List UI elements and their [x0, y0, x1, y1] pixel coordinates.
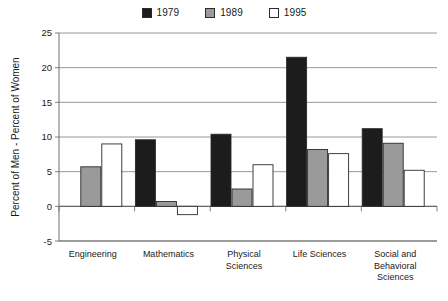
x-tick-label-engineering: Engineering — [69, 249, 117, 259]
x-tick-label-mathematics: Mathematics — [143, 249, 195, 259]
y-tick-label-20: 20 — [41, 62, 52, 73]
bar-1989-physical-sciences — [232, 189, 252, 206]
bar-1989-mathematics — [156, 201, 176, 206]
bar-1995-engineering — [102, 144, 122, 206]
bar-1989-social-and-behavioral-sciences — [383, 143, 403, 206]
y-tick-label-5: 5 — [47, 166, 52, 177]
y-tick-label-10: 10 — [41, 131, 52, 142]
y-axis-title: Percent of Men - Percent of Women — [10, 57, 21, 216]
y-tick-labels: 25 20 15 10 5 0 -5 — [41, 27, 52, 247]
plot-svg: Percent of Men - Percent of Women 25 20 … — [0, 0, 448, 301]
y-tick-label-15: 15 — [41, 97, 52, 108]
x-tick-label-physical-sciences: PhysicalSciences — [226, 249, 263, 271]
y-tick-label-neg5: -5 — [44, 236, 52, 247]
x-tick-label-social-and-behavioral-sciences: Social andBehavioralSciences — [374, 249, 417, 282]
plot-area: Percent of Men - Percent of Women 25 20 … — [0, 0, 448, 301]
y-tick-label-25: 25 — [41, 27, 52, 38]
bar-1989-engineering — [81, 167, 101, 207]
bar-1979-social-and-behavioral-sciences — [362, 129, 382, 207]
x-tick-labels: EngineeringMathematicsPhysicalSciencesLi… — [69, 249, 417, 282]
y-tick-label-0: 0 — [47, 201, 52, 212]
bar-1979-physical-sciences — [211, 134, 231, 206]
bar-series-group — [81, 57, 424, 214]
bar-1979-mathematics — [135, 140, 155, 207]
bar-1995-mathematics — [177, 206, 197, 214]
bar-1995-physical-sciences — [253, 165, 273, 207]
bar-chart: 1979 1989 1995 Percent of Men - Percent … — [0, 0, 448, 301]
bar-1995-life-sciences — [329, 154, 349, 207]
bar-1989-life-sciences — [308, 149, 328, 206]
x-tick-label-life-sciences: Life Sciences — [293, 249, 347, 259]
bar-1979-life-sciences — [287, 57, 307, 206]
bar-1995-social-and-behavioral-sciences — [404, 170, 424, 206]
